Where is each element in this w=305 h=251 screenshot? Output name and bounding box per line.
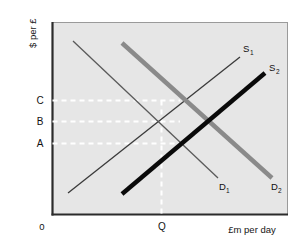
curve-label-s1-sub: 1 [250, 49, 254, 56]
curve-label-s2-base: S [269, 62, 275, 73]
x-axis-label: £m per day [228, 224, 276, 235]
chart-canvas: C B A Q 0 $ per £ £m per day S 1 S 2 D 1… [0, 0, 305, 251]
x-tick-labels-group: Q [158, 221, 166, 232]
y-tick-label-c: C [36, 95, 43, 106]
curve-label-d2-sub: 2 [278, 187, 282, 194]
x-tick-label-q: Q [158, 221, 166, 232]
y-axis-label: $ per £ [27, 18, 38, 48]
origin-label: 0 [39, 221, 44, 232]
supply-demand-figure: C B A Q 0 $ per £ £m per day S 1 S 2 D 1… [0, 0, 305, 251]
curve-label-s1-base: S [243, 43, 249, 54]
y-tick-labels-group: C B A [36, 95, 43, 149]
y-tick-label-b: B [37, 116, 44, 127]
curve-label-s2-sub: 2 [276, 68, 280, 75]
curve-label-d1-sub: 1 [226, 187, 230, 194]
curve-label-d2-base: D [271, 181, 278, 192]
y-tick-label-a: A [37, 138, 44, 149]
curve-label-d1-base: D [219, 181, 226, 192]
